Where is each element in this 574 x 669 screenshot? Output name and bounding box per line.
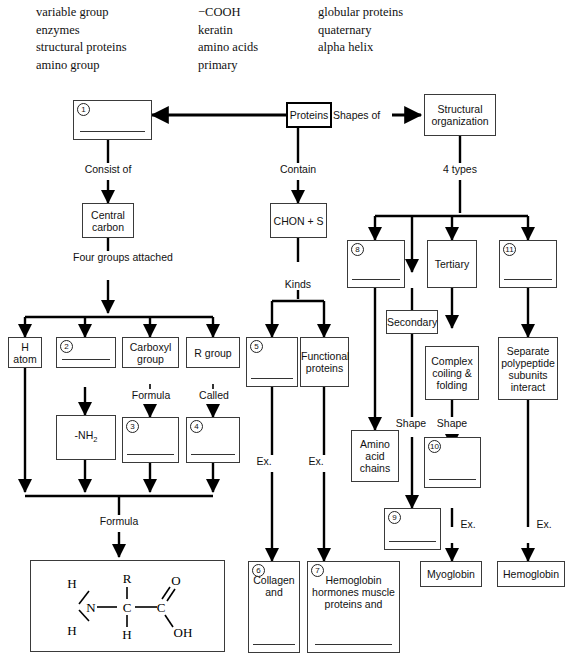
- node-proteins-label: Proteins: [288, 109, 331, 121]
- answer-box-3[interactable]: 3: [122, 417, 179, 463]
- answer-rule: [389, 541, 435, 542]
- edge-label-formula-bottom: Formula: [92, 515, 146, 527]
- edge-label-ex-4: Ex.: [531, 518, 557, 530]
- node-carboxyl-group[interactable]: Carboxyl group: [122, 337, 179, 368]
- node-r-group[interactable]: R group: [186, 337, 240, 368]
- answer-rule: [253, 644, 295, 645]
- node-complex-coiling-folding[interactable]: Complex coiling & folding: [425, 346, 479, 400]
- node-amino-group-formula[interactable]: -NH2: [56, 415, 116, 460]
- answer-box-4[interactable]: 4: [186, 417, 240, 463]
- node-proteins[interactable]: Proteins: [286, 102, 332, 128]
- node-tertiary-label: Tertiary: [428, 258, 476, 270]
- answer-box-2[interactable]: 2: [56, 337, 116, 368]
- node-separate-polypeptide-subunits-label: Separate polypeptide subunits interact: [499, 345, 557, 393]
- node-hemoglobin-label: Hemoglobin: [498, 568, 564, 580]
- node-tertiary[interactable]: Tertiary: [427, 240, 477, 288]
- box-number-7: 7: [311, 564, 324, 577]
- atom-c-center: C: [123, 600, 132, 615]
- answer-box-1[interactable]: 1: [73, 100, 152, 140]
- node-central-carbon[interactable]: Central carbon: [82, 203, 134, 238]
- node-r-group-label: R group: [187, 347, 239, 359]
- box-number-3: 3: [126, 420, 139, 433]
- box-number-2: 2: [60, 340, 73, 353]
- amino-acid-structure-drawing: H R O N C C H H OH: [31, 561, 224, 651]
- answer-box-5[interactable]: 5: [246, 337, 298, 387]
- node-h-atom-label: H atom: [9, 341, 41, 365]
- answer-rule: [191, 454, 235, 455]
- edge-label-contain: Contain: [270, 163, 326, 175]
- node-hemoglobin[interactable]: Hemoglobin: [497, 561, 565, 587]
- answer-box-8[interactable]: 8: [347, 240, 405, 288]
- answer-rule: [80, 131, 145, 132]
- node-h-atom[interactable]: H atom: [8, 337, 42, 368]
- node-myoglobin-label: Myoglobin: [421, 568, 481, 580]
- answer-box-11[interactable]: 11: [499, 240, 557, 288]
- answer-box-9[interactable]: 9: [384, 508, 441, 550]
- answer-box-6[interactable]: 6 Collagen and: [248, 561, 300, 653]
- box-number-11: 11: [503, 243, 516, 256]
- node-secondary[interactable]: Secondary: [386, 310, 438, 334]
- concept-map-diagram: 1 Proteins Shapes of Structural organiza…: [0, 0, 574, 669]
- node-carboxyl-group-label: Carboxyl group: [123, 341, 178, 365]
- edge-label-shape-left: Shape: [391, 417, 431, 429]
- box-number-10: 10: [428, 440, 441, 453]
- node-amino-group-formula-label: -NH2: [57, 429, 115, 446]
- node-complex-coiling-folding-label: Complex coiling & folding: [426, 355, 478, 391]
- box-number-6: 6: [252, 564, 265, 577]
- node-structural-organization[interactable]: Structural organization: [424, 94, 496, 136]
- edge-label-formula-carboxyl: Formula: [124, 389, 178, 401]
- answer-rule: [315, 644, 391, 645]
- answer-rule: [504, 279, 551, 280]
- edge-label-ex-1: Ex.: [251, 455, 277, 467]
- node-amino-acid-chains-label: Amino acid chains: [352, 438, 398, 474]
- answer-rule: [352, 279, 399, 280]
- node-secondary-label: Secondary: [385, 316, 439, 328]
- box-number-1: 1: [77, 103, 90, 116]
- answer-box-7[interactable]: 7 Hemoglobin hormones muscle proteins an…: [307, 561, 400, 653]
- atom-h-bottom-left: H: [67, 623, 76, 638]
- node-chon-s-label: CHON + S: [271, 215, 326, 227]
- edge-label-kinds: Kinds: [272, 278, 324, 290]
- box-number-5: 5: [250, 340, 263, 353]
- node-amino-acid-chains[interactable]: Amino acid chains: [351, 430, 399, 482]
- atom-h-top-left: H: [67, 576, 76, 591]
- answer-box-10[interactable]: 10: [424, 437, 481, 488]
- edge-label-shapes-of: Shapes of: [333, 109, 380, 121]
- edge-label-four-groups-attached: Four groups attached: [73, 251, 143, 263]
- box-number-8: 8: [351, 243, 364, 256]
- node-central-carbon-label: Central carbon: [83, 209, 133, 233]
- node-functional-proteins[interactable]: Functional proteins: [300, 337, 349, 387]
- answer-rule: [251, 378, 293, 379]
- atom-r-top: R: [123, 571, 132, 586]
- atom-h-bottom-center: H: [122, 627, 131, 642]
- box-number-9: 9: [388, 511, 401, 524]
- answer-rule: [127, 454, 173, 455]
- edge-label-called: Called: [188, 389, 240, 401]
- node-myoglobin[interactable]: Myoglobin: [420, 561, 482, 587]
- edge-label-shape-right: Shape: [432, 417, 472, 429]
- node-structural-organization-label: Structural organization: [425, 103, 495, 127]
- box-number-4: 4: [190, 420, 203, 433]
- node-separate-polypeptide-subunits[interactable]: Separate polypeptide subunits interact: [498, 337, 558, 400]
- node-functional-proteins-label: Functional proteins: [299, 350, 350, 374]
- edge-label-consist-of: Consist of: [78, 163, 138, 175]
- atom-oh: OH: [174, 625, 193, 640]
- amino-acid-structure-box: H R O N C C H H OH: [30, 560, 225, 652]
- atom-n: N: [86, 600, 96, 615]
- node-chon-s[interactable]: CHON + S: [270, 203, 327, 238]
- atom-c-right: C: [157, 600, 166, 615]
- atom-o-top-right: O: [171, 573, 180, 588]
- edge-label-ex-3: Ex.: [455, 518, 481, 530]
- answer-rule: [62, 359, 111, 360]
- answer-rule: [429, 479, 475, 480]
- edge-label-4-types: 4 types: [432, 163, 488, 175]
- edge-label-ex-2: Ex.: [303, 455, 329, 467]
